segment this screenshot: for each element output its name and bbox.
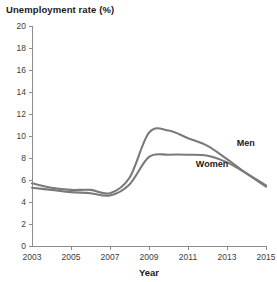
series-label-women: Women — [196, 159, 228, 169]
y-tick-label: 8 — [21, 153, 26, 163]
x-tick-label: 2005 — [62, 252, 81, 262]
y-tick-label: 6 — [21, 175, 26, 185]
y-tick-label: 4 — [21, 197, 26, 207]
x-tick-label: 2015 — [257, 252, 276, 262]
x-tick-label: 2013 — [218, 252, 237, 262]
data-series-group — [32, 128, 266, 196]
y-tick-label: 0 — [21, 241, 26, 251]
chart-plot-area: 02468101214161820 2003200520072009201120… — [0, 0, 277, 282]
y-tick-label: 18 — [17, 43, 27, 53]
y-tick-label: 14 — [17, 87, 27, 97]
y-tick-label: 12 — [17, 109, 27, 119]
series-label-men: Men — [237, 138, 255, 148]
y-tick-label: 10 — [17, 131, 27, 141]
series-annotations: MenWomen — [196, 138, 255, 169]
x-tick-label: 2011 — [179, 252, 198, 262]
x-tick-label: 2007 — [101, 252, 120, 262]
data-line-men — [32, 128, 266, 193]
x-axis: 2003200520072009201120132015 — [23, 246, 276, 262]
x-tick-label: 2003 — [23, 252, 42, 262]
unemployment-rate-chart: Unemployment rate (%) 02468101214161820 … — [0, 0, 277, 282]
y-tick-label: 20 — [17, 21, 27, 31]
x-axis-title: Year — [139, 267, 159, 278]
y-tick-label: 2 — [21, 219, 26, 229]
y-tick-label: 16 — [17, 65, 27, 75]
y-axis: 02468101214161820 — [17, 21, 32, 251]
x-tick-label: 2009 — [140, 252, 159, 262]
